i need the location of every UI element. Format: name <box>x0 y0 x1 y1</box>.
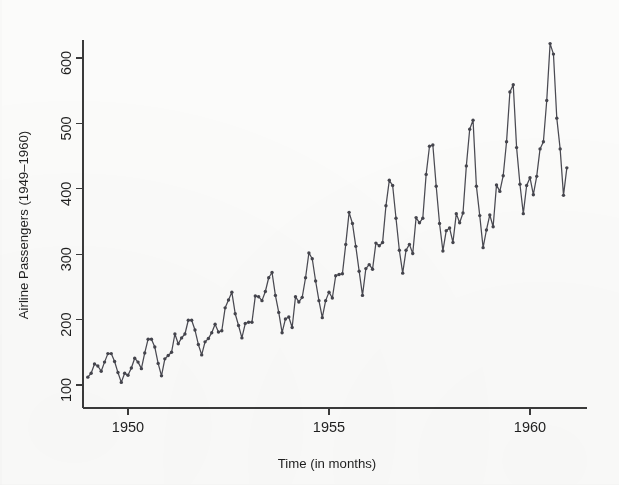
data-point <box>89 372 92 375</box>
data-point <box>431 143 434 146</box>
data-point <box>210 331 213 334</box>
x-tick-label-1955: 1955 <box>313 419 345 435</box>
data-point <box>126 373 129 376</box>
data-point <box>146 338 149 341</box>
data-point <box>234 312 237 315</box>
data-point <box>488 213 491 216</box>
data-point <box>438 222 441 225</box>
data-point <box>518 183 521 186</box>
chart-figure: 100200300400500600 195019551960 Time (in… <box>0 0 619 485</box>
data-point <box>471 118 474 121</box>
data-point <box>545 99 548 102</box>
data-point <box>411 252 414 255</box>
data-point <box>404 249 407 252</box>
y-axis-title: Airline Passengers (1949–1960) <box>16 131 31 319</box>
data-point <box>106 352 109 355</box>
data-point <box>341 272 344 275</box>
y-tick-label-200: 200 <box>58 312 74 336</box>
data-point <box>96 364 99 367</box>
data-point <box>398 249 401 252</box>
data-point <box>347 211 350 214</box>
data-point <box>465 164 468 167</box>
data-point <box>267 276 270 279</box>
data-point <box>317 299 320 302</box>
y-axis-ticks: 100200300400500600 <box>58 51 83 402</box>
data-point <box>502 174 505 177</box>
data-point <box>337 273 340 276</box>
data-point <box>247 321 250 324</box>
data-point <box>297 300 300 303</box>
data-point <box>284 317 287 320</box>
data-point <box>455 212 458 215</box>
data-point <box>495 183 498 186</box>
series-line-airline-passengers <box>88 44 567 383</box>
data-point <box>190 319 193 322</box>
data-point <box>515 146 518 149</box>
data-point <box>203 340 206 343</box>
data-point <box>217 330 220 333</box>
data-point <box>173 332 176 335</box>
data-point <box>401 271 404 274</box>
data-point <box>277 311 280 314</box>
data-point <box>110 352 113 355</box>
data-point <box>274 294 277 297</box>
data-point <box>324 299 327 302</box>
data-point <box>307 251 310 254</box>
data-point <box>327 290 330 293</box>
data-point <box>475 184 478 187</box>
data-point <box>562 194 565 197</box>
data-point <box>522 212 525 215</box>
data-point <box>364 267 367 270</box>
data-point <box>428 145 431 148</box>
data-point <box>150 338 153 341</box>
data-point <box>552 52 555 55</box>
data-point <box>130 366 133 369</box>
data-point <box>565 166 568 169</box>
data-point <box>254 294 257 297</box>
data-series-group <box>86 42 568 384</box>
data-point <box>485 228 488 231</box>
data-point <box>538 147 541 150</box>
data-point <box>167 354 170 357</box>
data-point <box>555 116 558 119</box>
data-point <box>414 216 417 219</box>
data-point <box>461 211 464 214</box>
data-point <box>220 329 223 332</box>
data-point <box>116 371 119 374</box>
data-point <box>223 306 226 309</box>
data-point <box>508 90 511 93</box>
data-point <box>542 140 545 143</box>
y-tick-label-100: 100 <box>58 378 74 402</box>
data-point <box>290 326 293 329</box>
data-point <box>435 184 438 187</box>
data-point <box>512 83 515 86</box>
data-point <box>270 271 273 274</box>
data-point <box>153 345 156 348</box>
data-point <box>558 147 561 150</box>
data-point <box>535 175 538 178</box>
data-point <box>294 295 297 298</box>
data-point <box>163 357 166 360</box>
data-point <box>113 360 116 363</box>
data-point <box>177 342 180 345</box>
data-point <box>123 372 126 375</box>
data-point <box>244 322 247 325</box>
data-point <box>478 214 481 217</box>
data-point <box>133 356 136 359</box>
data-point <box>136 360 139 363</box>
data-point <box>394 217 397 220</box>
data-point <box>301 296 304 299</box>
data-point <box>140 367 143 370</box>
data-point <box>103 360 106 363</box>
data-point <box>120 381 123 384</box>
data-point <box>528 176 531 179</box>
data-point <box>240 336 243 339</box>
data-point <box>321 316 324 319</box>
data-point <box>200 353 203 356</box>
data-point <box>237 324 240 327</box>
data-point <box>378 244 381 247</box>
data-point <box>418 221 421 224</box>
data-point <box>207 337 210 340</box>
data-point <box>311 257 314 260</box>
data-point <box>86 375 89 378</box>
